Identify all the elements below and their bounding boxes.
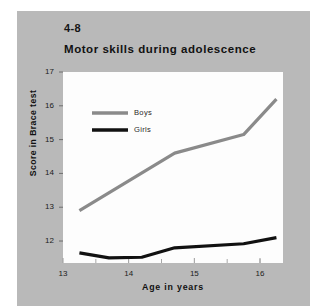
y-axis-ticks xyxy=(59,72,63,241)
x-tick-label: 16 xyxy=(249,269,271,278)
y-tick-label: 15 xyxy=(32,135,54,144)
y-tick-label: 13 xyxy=(32,202,54,211)
y-tick-label: 17 xyxy=(32,67,54,76)
x-tick-label: 13 xyxy=(52,269,74,278)
legend-label-boys: Boys xyxy=(134,108,152,117)
y-tick-label: 14 xyxy=(32,168,54,177)
plot-area-background xyxy=(63,72,283,263)
legend-label-girls: Girls xyxy=(134,125,151,134)
x-tick-label: 14 xyxy=(118,269,140,278)
chart-plot xyxy=(0,0,310,306)
y-tick-label: 16 xyxy=(32,101,54,110)
x-axis-label: Age in years xyxy=(63,282,283,292)
figure-container: 4-8 Motor skills during adolescence Scor… xyxy=(0,0,310,306)
y-tick-label: 12 xyxy=(32,236,54,245)
x-tick-label: 15 xyxy=(183,269,205,278)
